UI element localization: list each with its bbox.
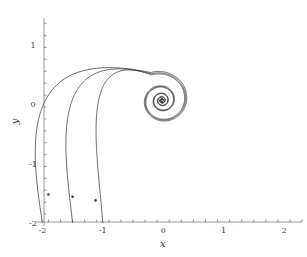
x-axis-label: x [160,238,166,249]
trajectory-marker [94,199,97,202]
x-tick-label: 2 [281,226,286,235]
y-axis-label: y [9,119,20,125]
trajectory-marker [47,193,50,196]
spiral-plot-canvas: -2-1012 -2-101 [0,0,307,257]
data-curves-group [35,68,187,223]
trajectory-marker [71,196,74,199]
y-axis-tick-labels: -2-101 [29,41,37,229]
x-tick-label: -1 [99,226,107,235]
trajectory-curve [96,70,185,223]
y-tick-label: 1 [30,41,35,50]
x-axis-ticks [48,220,302,222]
x-tick-label: 0 [161,226,166,235]
y-axis-ticks [44,24,46,214]
x-axis-tick-labels: -2-1012 [39,226,287,235]
data-markers-group [47,193,97,202]
trajectory-curve [66,69,186,223]
y-tick-label: 0 [30,100,35,109]
trajectory-curve [35,68,187,223]
axes-group [36,18,302,226]
y-tick-label: -2 [29,219,37,228]
plot-figure: -2-1012 -2-101 x y [0,0,307,257]
x-tick-label: -2 [39,226,47,235]
x-tick-label: 1 [221,226,226,235]
